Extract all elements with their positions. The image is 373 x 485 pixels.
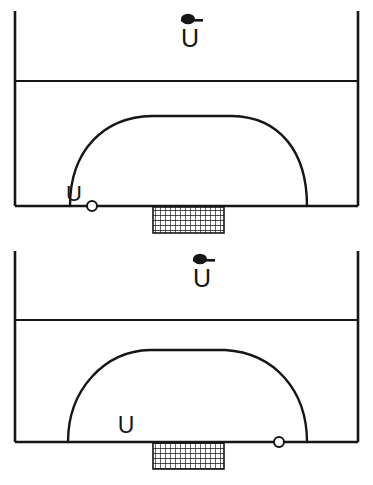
separation-bubble-arc bbox=[70, 116, 307, 206]
lower-panel-drawing: U U bbox=[0, 243, 373, 485]
freestream-velocity-label: U bbox=[181, 24, 199, 52]
freestream-velocity-label-group: U bbox=[181, 14, 203, 52]
overbar-blob-icon bbox=[193, 254, 207, 264]
upper-panel-drawing: U U bbox=[0, 0, 373, 243]
local-velocity-label: U bbox=[118, 412, 135, 438]
freestream-velocity-label: U bbox=[193, 264, 211, 292]
figure-root: U U bbox=[0, 0, 373, 485]
local-velocity-label: U bbox=[66, 181, 82, 206]
upper-panel: U U bbox=[0, 0, 373, 243]
reattachment-point-marker bbox=[274, 437, 284, 447]
hatched-obstacle-block bbox=[153, 207, 224, 233]
separation-bubble-arc bbox=[68, 350, 307, 442]
lower-panel: U U bbox=[0, 243, 373, 485]
overbar-blob-icon bbox=[181, 14, 195, 24]
hatched-obstacle-block bbox=[153, 443, 224, 469]
freestream-velocity-label-group: U bbox=[193, 254, 215, 292]
reattachment-point-marker bbox=[87, 201, 97, 211]
